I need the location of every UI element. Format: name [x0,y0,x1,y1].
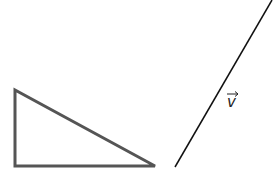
vector-label: v [227,93,237,111]
vector-line [175,0,272,167]
diagram-canvas: v [0,0,279,176]
right-triangle [15,90,155,166]
